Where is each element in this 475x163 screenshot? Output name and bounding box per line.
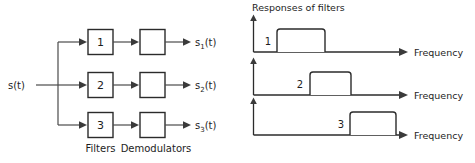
filter-block-2-label: 2 xyxy=(97,79,104,92)
plot-1-y-axis-arrow-icon xyxy=(250,15,257,22)
arrow-into-filter-2-icon xyxy=(79,81,87,89)
arrow-into-demodulator-3-icon xyxy=(131,121,139,129)
filter-block-1-label: 1 xyxy=(97,36,104,49)
arrow-output-1-icon xyxy=(183,38,191,46)
plot-2-x-axis-label: Frequency xyxy=(414,90,463,101)
plot-3-passband-pulse xyxy=(350,112,396,135)
branch-row-1 xyxy=(58,30,191,55)
output-signal-label-2: s2(t) xyxy=(195,80,217,94)
branch-row-2 xyxy=(58,73,191,98)
output-signal-label-3: s3(t) xyxy=(195,120,217,134)
response-plots-title: Responses of filters xyxy=(252,2,345,13)
output-signal-label-1: s1(t) xyxy=(195,37,217,51)
arrow-into-demodulator-1-icon xyxy=(131,38,139,46)
demodulator-block-1 xyxy=(140,30,165,55)
plot-1-pulse-label: 1 xyxy=(265,36,271,47)
plot-3-pulse-label: 3 xyxy=(338,119,344,130)
arrow-into-filter-3-icon xyxy=(79,121,87,129)
plot-2-x-axis-arrow-icon xyxy=(399,91,408,99)
response-plot-2: 2 Frequency xyxy=(250,58,463,101)
plot-1-x-axis-label: Frequency xyxy=(414,47,463,58)
plot-3-y-axis-arrow-icon xyxy=(250,98,257,105)
demodulators-caption: Demodulators xyxy=(121,143,192,154)
plot-2-pulse-label: 2 xyxy=(297,79,303,90)
arrow-output-3-icon xyxy=(183,121,191,129)
plot-3-x-axis-label: Frequency xyxy=(414,130,463,141)
filter-block-3-label: 3 xyxy=(97,119,104,132)
output-3-suffix: (t) xyxy=(205,120,217,131)
plot-1-passband-pulse xyxy=(277,29,325,52)
figure-canvas: 1 2 3 s(t) s1(t) s2(t) s3(t) xyxy=(0,0,475,163)
output-2-suffix: (t) xyxy=(205,80,217,91)
plot-1-x-axis-arrow-icon xyxy=(399,48,408,56)
branch-row-3 xyxy=(58,113,191,138)
response-plot-1: 1 Frequency xyxy=(250,15,463,58)
response-plot-3: 3 Frequency xyxy=(250,98,463,141)
arrow-into-demodulator-2-icon xyxy=(131,81,139,89)
demodulator-block-2 xyxy=(140,73,165,98)
plot-2-passband-pulse xyxy=(310,72,351,95)
arrow-output-2-icon xyxy=(183,81,191,89)
arrow-into-filter-1-icon xyxy=(79,38,87,46)
plot-2-y-axis-arrow-icon xyxy=(250,58,257,65)
filters-caption: Filters xyxy=(86,143,116,154)
svg-text:s3(t): s3(t) xyxy=(195,120,217,134)
figure-root: 1 2 3 s(t) s1(t) s2(t) s3(t) xyxy=(0,0,475,163)
demodulator-block-3 xyxy=(140,113,165,138)
plot-3-x-axis-arrow-icon xyxy=(399,131,408,139)
block-diagram: 1 2 3 s(t) s1(t) s2(t) s3(t) xyxy=(8,30,217,155)
svg-text:s1(t): s1(t) xyxy=(195,37,217,51)
svg-text:s2(t): s2(t) xyxy=(195,80,217,94)
output-1-suffix: (t) xyxy=(205,37,217,48)
input-signal-label: s(t) xyxy=(8,80,25,91)
response-plots: Responses of filters 1 Frequency 2 Frequ… xyxy=(250,2,463,141)
